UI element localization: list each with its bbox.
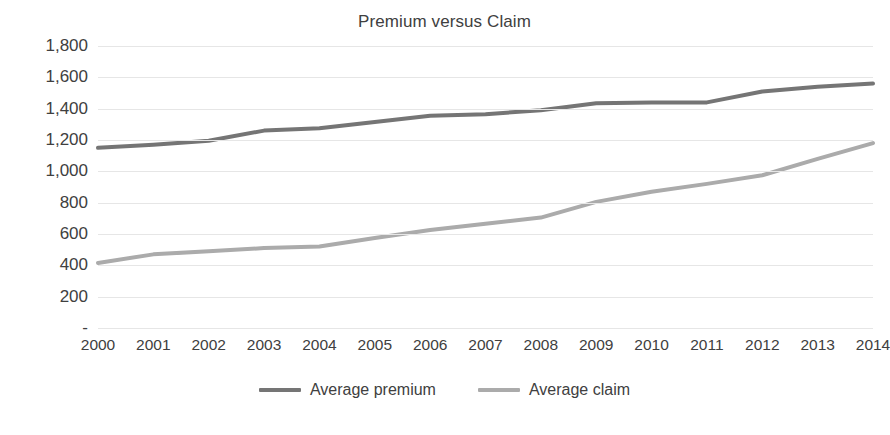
y-tick-label: 1,200 [0,130,88,150]
y-tick-label: 1,800 [0,36,88,56]
gridline [98,297,873,298]
x-tick-label: 2014 [856,336,890,354]
x-tick-label: 2002 [191,336,225,354]
x-tick-label: 2010 [634,336,668,354]
gridline [98,171,873,172]
x-tick-label: 2000 [81,336,115,354]
legend-swatch-icon [478,388,520,392]
x-tick-label: 2011 [690,336,723,354]
x-tick-label: 2006 [413,336,447,354]
x-tick-label: 2008 [524,336,558,354]
legend-item[interactable]: Average claim [478,381,630,399]
x-tick-label: 2003 [247,336,281,354]
x-tick-label: 2012 [745,336,779,354]
legend-label: Average claim [529,381,630,399]
legend-item[interactable]: Average premium [259,381,436,399]
gridline [98,265,873,266]
chart-title: Premium versus Claim [0,12,889,32]
chart-legend: Average premiumAverage claim [0,381,889,399]
series-lines [98,46,873,328]
y-tick-label: - [0,318,88,338]
gridline [98,140,873,141]
gridline [98,203,873,204]
gridline [98,109,873,110]
y-axis: 1,8001,6001,4001,2001,000800600400200- [0,0,88,435]
plot-area [98,46,873,328]
y-tick-label: 1,000 [0,161,88,181]
x-tick-label: 2009 [579,336,613,354]
gridline [98,234,873,235]
y-tick-label: 600 [0,224,88,244]
y-tick-label: 800 [0,193,88,213]
x-axis: 2000200120022003200420052006200720082009… [98,336,873,362]
gridline [98,46,873,47]
x-tick-label: 2007 [468,336,502,354]
y-tick-label: 1,600 [0,67,88,87]
y-tick-label: 1,400 [0,99,88,119]
x-tick-label: 2005 [358,336,392,354]
x-tick-label: 2013 [800,336,834,354]
x-tick-label: 2001 [136,336,170,354]
legend-label: Average premium [310,381,436,399]
x-tick-label: 2004 [302,336,336,354]
gridline [98,77,873,78]
gridline [98,328,873,329]
y-tick-label: 400 [0,255,88,275]
legend-swatch-icon [259,388,301,392]
series-line-average-premium [98,84,873,148]
y-tick-label: 200 [0,287,88,307]
